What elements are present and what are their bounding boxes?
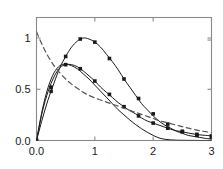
series-marker — [195, 133, 199, 137]
chart-figure: 0.01230.00.51 — [0, 0, 223, 169]
y-tick-label: 1 — [24, 33, 30, 44]
x-tick-label: 3 — [208, 146, 214, 157]
series-marker — [137, 114, 141, 118]
y-tick-label: 0.0 — [15, 135, 30, 146]
series-marker — [181, 130, 185, 134]
series-marker — [166, 126, 170, 130]
series-marker — [108, 93, 112, 97]
series-group — [35, 32, 214, 142]
series-marker — [151, 112, 155, 116]
series-marker — [78, 37, 82, 41]
series-marker — [122, 77, 126, 81]
series-line — [37, 38, 212, 141]
series-marker — [93, 40, 97, 44]
series-marker — [151, 121, 155, 125]
series-line — [37, 32, 212, 133]
series-marker — [108, 57, 112, 61]
y-tick-label: 0.5 — [15, 84, 30, 95]
x-tick-label: 1 — [92, 146, 98, 157]
series-marker — [49, 90, 53, 94]
series-marker — [49, 85, 53, 89]
series-marker — [64, 55, 68, 59]
series-marker — [93, 79, 97, 83]
x-tick-label: 2 — [150, 146, 156, 157]
series-marker — [210, 134, 214, 138]
x-tick-label: 0.0 — [29, 146, 44, 157]
series-marker — [137, 97, 141, 101]
